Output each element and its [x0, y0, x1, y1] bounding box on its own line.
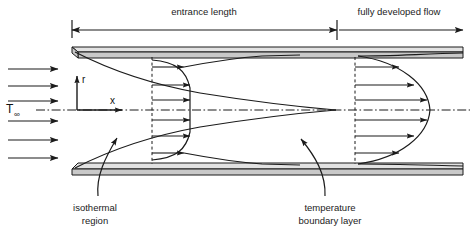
- lower-boundary-layer-curve: [75, 110, 336, 168]
- inlet-temperature-subscript: ∞: [14, 110, 20, 119]
- bottom-wall-front-face: [72, 169, 463, 175]
- thermal-entry-length-figure: entrance length fully developed flow: [0, 0, 474, 232]
- temperature-boundary-layer-callout: temperature boundary layer: [299, 139, 362, 226]
- entrance-length-label: entrance length: [171, 6, 237, 17]
- top-wall-upper-face: [72, 47, 463, 52]
- temperature-boundary-layer-label-line1: temperature: [304, 202, 355, 213]
- inlet-temperature-label-group: T ∞: [6, 102, 20, 119]
- isothermal-region-callout: isothermal region: [73, 138, 117, 226]
- fully-developed-flow-label: fully developed flow: [358, 6, 441, 17]
- isothermal-region-label-line1: isothermal: [73, 202, 117, 213]
- isothermal-region-label-line2: region: [82, 215, 108, 226]
- inlet-temperature-label: T: [6, 102, 14, 116]
- coordinate-axes-group: r x: [77, 74, 122, 110]
- x-axis-label: x: [110, 95, 115, 106]
- diagram-canvas: entrance length fully developed flow: [0, 0, 474, 232]
- duct-walls-group: [72, 47, 463, 175]
- r-axis-label: r: [82, 74, 86, 85]
- temperature-boundary-layer-label-line2: boundary layer: [299, 215, 362, 226]
- top-dimension-group: entrance length fully developed flow: [72, 6, 463, 40]
